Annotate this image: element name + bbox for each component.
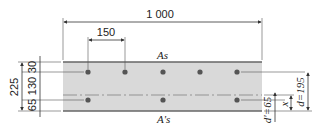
width-label: 1 000: [146, 8, 174, 20]
tension-steel-label: As: [156, 49, 168, 61]
concrete-slab: [63, 62, 262, 111]
middle-label: 130: [26, 77, 38, 95]
d-label: d=195: [294, 77, 306, 107]
rebar: [160, 97, 165, 102]
rebar: [234, 97, 239, 102]
spacing-label: 150: [97, 26, 115, 38]
d-prime-label: d'=65: [261, 96, 273, 123]
compression-steel-label: A's: [156, 113, 170, 125]
rebar: [122, 69, 127, 74]
rebar: [85, 69, 90, 74]
rebar: [234, 69, 239, 74]
total-height-label: 225: [8, 78, 20, 96]
x-label: x: [278, 101, 290, 107]
rebar: [85, 97, 90, 102]
top-cover-label: 30: [26, 61, 38, 73]
bottom-cover-label: 65: [26, 99, 38, 111]
rebar: [160, 69, 165, 74]
slab-section-diagram: 1 000 150 As A's 225 30 130 65 d'=65 x d…: [0, 0, 317, 130]
rebar: [197, 69, 202, 74]
